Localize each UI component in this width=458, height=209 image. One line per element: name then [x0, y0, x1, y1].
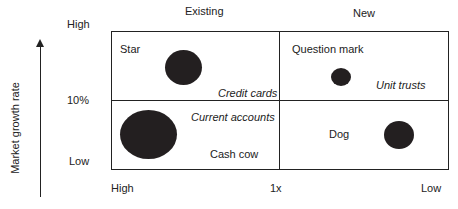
dot-dog: [384, 121, 414, 149]
y-axis-low: Low: [69, 155, 89, 167]
quadrant-dog-title: Dog: [329, 128, 349, 140]
dot-credit-cards: [165, 50, 202, 85]
x-axis-mid: 1x: [270, 182, 282, 194]
quadrant-cashcow-product: Current accounts: [191, 111, 275, 123]
column-label-existing: Existing: [185, 5, 224, 17]
x-axis-low: Low: [421, 182, 441, 194]
y-axis-line: [40, 45, 41, 197]
matrix-horizontal-divider: [111, 100, 449, 101]
dot-current-accounts: [120, 110, 177, 159]
column-label-new: New: [353, 7, 375, 19]
y-axis-high: High: [67, 18, 90, 30]
quadrant-star-title: Star: [120, 43, 140, 55]
quadrant-question-product: Unit trusts: [376, 79, 426, 91]
quadrant-star-product: Credit cards: [218, 87, 277, 99]
dot-unit-trusts: [331, 68, 351, 86]
y-axis-mid: 10%: [67, 94, 89, 106]
quadrant-cashcow-title: Cash cow: [210, 148, 258, 160]
x-axis-high: High: [111, 182, 134, 194]
y-axis-title: Market growth rate: [9, 73, 21, 183]
quadrant-question-title: Question mark: [292, 43, 364, 55]
